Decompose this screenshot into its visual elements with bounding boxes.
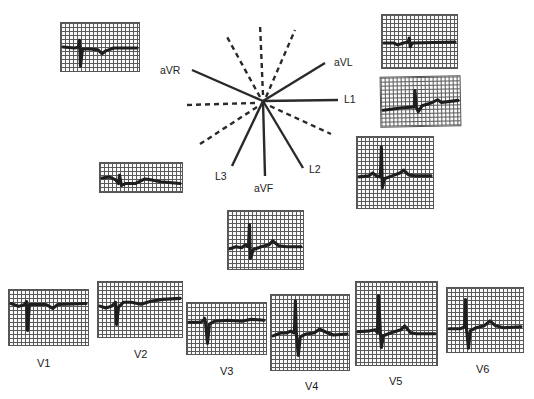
ecg-trace-L2 xyxy=(359,147,431,188)
ecg-trace-L1 xyxy=(383,90,458,112)
ecg-strip-V4 xyxy=(270,294,350,371)
ecg-trace-V4 xyxy=(273,301,347,356)
lead-label-V3: V3 xyxy=(220,365,233,377)
axis-dashed-upright xyxy=(266,30,295,97)
axis-label-L2: L2 xyxy=(309,163,321,175)
axis-L3 xyxy=(232,101,263,166)
axis-label-aVF: aVF xyxy=(254,182,273,194)
lead-label-V1: V1 xyxy=(37,357,50,369)
ecg-strip-L2 xyxy=(356,136,434,209)
axis-dashed-left xyxy=(186,103,255,105)
ecg-strip-V5 xyxy=(355,281,438,366)
axis-dashed-upleft xyxy=(226,35,260,97)
axis-aVL xyxy=(263,63,325,101)
ecg-trace-V6 xyxy=(449,300,521,348)
lead-label-V4: V4 xyxy=(305,380,318,392)
ecg-trace-aVL xyxy=(384,38,455,47)
axis-label-aVL: aVL xyxy=(334,56,353,68)
ecg-strip-aVL xyxy=(381,14,458,69)
ecg-trace-V3 xyxy=(189,318,264,343)
axis-label-L3: L3 xyxy=(215,170,227,182)
ecg-trace-V2 xyxy=(100,298,180,324)
lead-label-V2: V2 xyxy=(134,348,147,360)
axis-label-aVR: aVR xyxy=(160,64,180,76)
ecg-trace-L3 xyxy=(102,175,180,185)
axis-L2 xyxy=(263,101,303,168)
ecg-trace-V1 xyxy=(11,302,86,331)
ecg-trace-aVF xyxy=(230,225,301,259)
ecg-trace-V5 xyxy=(358,296,435,348)
ecg-trace-aVR xyxy=(63,40,137,66)
axis-aVF xyxy=(263,101,265,176)
ecg-strip-V6 xyxy=(446,287,524,353)
ecg-strip-L3 xyxy=(99,162,183,193)
axis-dashed-downleft xyxy=(197,107,257,146)
axis-dashed-downright xyxy=(270,106,331,134)
ecg-strip-V2 xyxy=(97,281,183,338)
axis-label-L1: L1 xyxy=(344,93,356,105)
ecg-strip-V3 xyxy=(186,302,267,355)
axis-L1 xyxy=(263,100,338,101)
ecg-strip-L1 xyxy=(380,75,462,127)
axis-dashed-up xyxy=(260,24,263,95)
lead-label-V6: V6 xyxy=(476,363,489,375)
lead-label-V5: V5 xyxy=(389,375,402,387)
ecg-strip-V1 xyxy=(8,289,89,346)
ecg-strip-aVF xyxy=(227,210,304,270)
axis-aVR xyxy=(192,70,263,101)
ecg-strip-aVR xyxy=(60,22,140,72)
